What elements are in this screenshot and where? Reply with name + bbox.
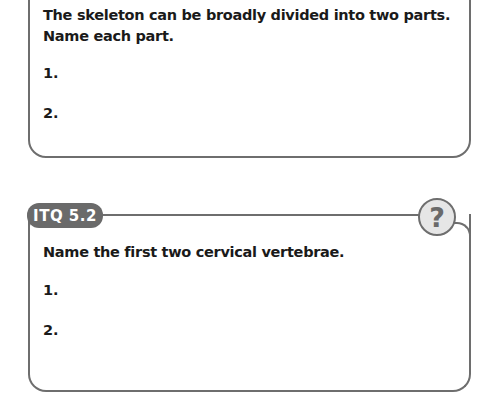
- question-text: The skeleton can be broadly divided into…: [43, 5, 458, 47]
- question-text: Name the first two cervical vertebrae.: [43, 242, 458, 263]
- answer-line-1[interactable]: 1.: [43, 65, 59, 81]
- answer-line-1[interactable]: 1.: [43, 282, 59, 298]
- header-divider: [100, 214, 420, 216]
- answer-line-2[interactable]: 2.: [43, 322, 59, 338]
- itq-card-1: The skeleton can be broadly divided into…: [28, 0, 471, 158]
- question-mark-icon: ?: [418, 198, 456, 236]
- answer-line-2[interactable]: 2.: [43, 105, 59, 121]
- itq-label: ITQ 5.2: [27, 203, 103, 228]
- itq-card-2: Name the first two cervical vertebrae. 1…: [28, 214, 471, 392]
